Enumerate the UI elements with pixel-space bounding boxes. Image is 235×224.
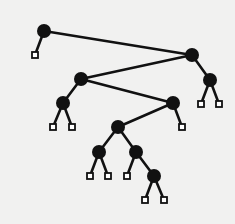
leaf-node-L6 (179, 124, 185, 130)
leaf-node-L8 (105, 173, 111, 179)
leaf-node-L3 (216, 101, 222, 107)
internal-node-J (147, 169, 161, 183)
background (0, 0, 235, 224)
leaf-node-L5 (69, 124, 75, 130)
leaf-node-L2 (198, 101, 204, 107)
leaf-node-L7 (87, 173, 93, 179)
leaf-node-L9 (124, 173, 130, 179)
internal-node-G (111, 120, 125, 134)
internal-node-C (74, 72, 88, 86)
internal-node-F (166, 96, 180, 110)
internal-node-D (203, 73, 217, 87)
leaf-node-L1 (32, 52, 38, 58)
leaf-node-L11 (161, 197, 167, 203)
internal-node-H (92, 145, 106, 159)
internal-node-A (37, 24, 51, 38)
internal-node-E (56, 96, 70, 110)
internal-node-B (185, 48, 199, 62)
internal-node-I (129, 145, 143, 159)
leaf-node-L4 (50, 124, 56, 130)
tree-diagram (0, 0, 235, 224)
leaf-node-L10 (142, 197, 148, 203)
